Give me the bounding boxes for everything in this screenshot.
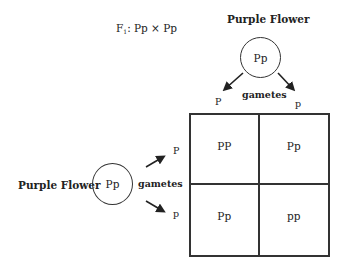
punnett-cell: Pp: [191, 185, 260, 255]
cell-genotype: pp: [287, 210, 300, 222]
cell-genotype: Pp: [217, 210, 231, 222]
punnett-cell: PP: [191, 115, 260, 185]
cell-genotype: PP: [217, 140, 231, 152]
punnett-square: PP Pp Pp pp: [189, 113, 330, 257]
punnett-cell: pp: [260, 185, 329, 255]
cell-genotype: Pp: [287, 140, 301, 152]
punnett-cell: Pp: [260, 115, 329, 185]
